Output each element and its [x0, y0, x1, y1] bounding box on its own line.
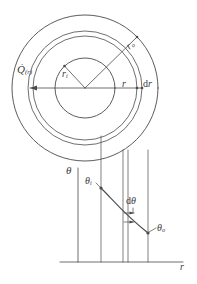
theta-axis-label: θ [66, 165, 71, 176]
figure-canvas: · Q(r) ri r dr ro θ θi dθ θo r [0, 0, 197, 284]
inner-radius-endpoint [63, 65, 66, 68]
heat-flow-argument: (r) [25, 68, 32, 75]
theta-axis-symbol: θ [66, 164, 71, 176]
theta-i-subscript: i [90, 179, 92, 186]
dtheta-variable: θ [131, 195, 136, 206]
radius-label: r [122, 79, 126, 89]
inner-radius-label: ri [62, 69, 68, 79]
dtheta-label: dθ [126, 196, 136, 206]
temperature-curve [101, 188, 148, 233]
r-axis-symbol: r [180, 261, 184, 272]
theta-o-subscript: o [162, 226, 165, 233]
dr-label: dr [143, 79, 152, 89]
heat-flow-arrow-head [30, 86, 37, 91]
diagram-vector-layer [0, 0, 197, 284]
dr-variable: r [148, 78, 152, 89]
theta-i-leader [96, 183, 100, 187]
theta-i-label: θi [85, 176, 92, 186]
theta-o-leader [149, 228, 156, 232]
r-axis-label: r [180, 262, 184, 272]
q-dot-accent: · [21, 60, 24, 69]
inner-radius-subscript: i [66, 72, 68, 79]
radius-symbol: r [122, 78, 126, 89]
theta-o-label: θo [157, 223, 165, 233]
outer-radius-endpoint [136, 36, 139, 39]
heat-flow-label: · Q(r) [17, 64, 32, 76]
